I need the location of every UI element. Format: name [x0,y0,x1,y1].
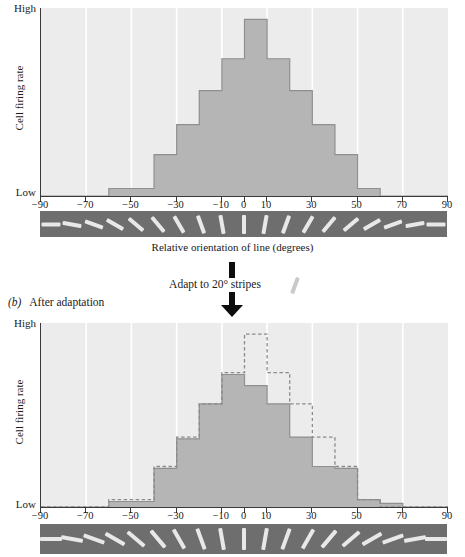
figure-root: High Low Cell firing rate −90−70−50−30−1… [0,0,465,557]
orientation-stripe [341,530,360,547]
orientation-stripe [242,528,246,550]
x-axis-tick-label: −50 [122,199,138,210]
x-axis-tick-label: 30 [306,510,317,521]
orientation-stripe [41,222,60,226]
orientation-stripe [40,537,62,541]
panel-b-text: After adaptation [24,296,104,308]
orientation-stripe [301,215,314,233]
x-axis-title-before: Relative orientation of line (degrees) [0,241,465,253]
orientation-stripe [281,214,291,233]
adaptation-arrow-block: Adapt to 20° stripes [0,262,465,296]
panel-after-adaptation: (b) After adaptation High Low Cell firin… [0,296,465,557]
x-axis-tick-label: 10 [261,199,272,210]
x-axis-tick-label: −30 [167,510,183,521]
x-axis-tick-label: −50 [122,510,138,521]
orientation-stripe [261,214,268,233]
plot-area-before [40,8,448,197]
orientation-stripe [342,216,359,231]
histogram-svg [41,8,448,196]
x-axis-tick-label: 0 [241,510,246,521]
x-axis-tick-label: 70 [397,510,408,521]
panel-b-label: (b) After adaptation [8,296,104,308]
x-axis-tick-label: −10 [213,199,229,210]
orientation-stripe [281,528,292,550]
histogram-fill [41,375,448,507]
orientation-stripe [83,533,105,544]
arrow-stem-upper [229,262,235,278]
x-axis-tick-label: −90 [32,199,48,210]
x-axis-tick-label: 90 [442,510,453,521]
orientation-stripe [404,535,426,543]
adapt-caption: Adapt to 20° stripes [169,278,261,290]
orientation-stripe [242,215,246,234]
x-axis-tick-label: −70 [77,510,93,521]
x-axis-tick-label: −10 [213,510,229,521]
orientation-stripe [84,219,103,229]
orientation-stripe [62,220,81,227]
orientation-stripe [301,528,315,549]
orientation-stripe [382,533,404,544]
orientation-stripe [104,532,125,546]
orientation-stripe [196,214,206,233]
orientation-stripe [261,528,269,550]
orientation-stripe [150,215,165,232]
orientation-stripe-strip-before [40,211,447,237]
x-axis-tick-label: 10 [261,510,272,521]
x-axis-tick-label: 50 [351,199,362,210]
histogram-svg [41,323,448,507]
orientation-stripe [172,528,186,549]
x-axis-tick-label: 90 [442,199,453,210]
orientation-stripe [195,528,206,550]
orientation-stripe [173,215,186,233]
adapt-sample-stripe-icon [290,277,300,294]
orientation-stripe [427,222,446,226]
orientation-stripe [106,218,124,231]
orientation-stripe [425,537,447,541]
x-axis-tick-label: −70 [77,199,93,210]
y-axis-high-label: High [2,3,36,14]
orientation-stripe [218,214,225,233]
y-axis-low-label-b: Low [2,499,36,510]
orientation-stripe [384,219,403,229]
x-axis-tick-label: −90 [32,510,48,521]
y-axis-low-label: Low [2,187,36,198]
x-axis-tick-label: 0 [241,199,246,210]
plot-area-after [40,323,448,508]
panel-before-adaptation: High Low Cell firing rate −90−70−50−30−1… [0,0,465,252]
orientation-stripe [61,535,83,543]
orientation-stripe [363,218,381,231]
y-axis-title: Cell firing rate [13,48,25,148]
orientation-stripe [321,529,338,548]
orientation-stripe [218,528,226,550]
x-axis-tick-label: 30 [306,199,317,210]
x-axis-tick-label: 70 [397,199,408,210]
orientation-stripe [361,532,382,546]
orientation-stripe [405,220,424,227]
orientation-stripe [127,530,146,547]
panel-b-tag: (b) [8,296,21,308]
x-axis-tick-label: 50 [351,510,362,521]
orientation-stripe-strip-after [40,524,447,554]
x-axis-tick-label: −30 [167,199,183,210]
orientation-stripe [128,216,145,231]
y-axis-high-label-b: High [2,318,36,329]
orientation-stripe [322,215,337,232]
y-axis-title-b: Cell firing rate [13,362,25,462]
orientation-stripe [149,529,166,548]
